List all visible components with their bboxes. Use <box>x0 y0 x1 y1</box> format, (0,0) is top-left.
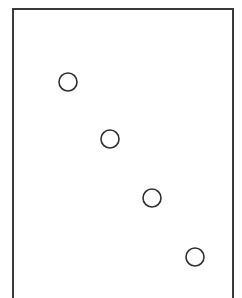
circle-node-3 <box>143 189 161 207</box>
circle-node-4 <box>186 248 204 266</box>
circle-group <box>59 73 204 266</box>
circle-node-2 <box>101 130 119 148</box>
circle-node-1 <box>59 73 77 91</box>
